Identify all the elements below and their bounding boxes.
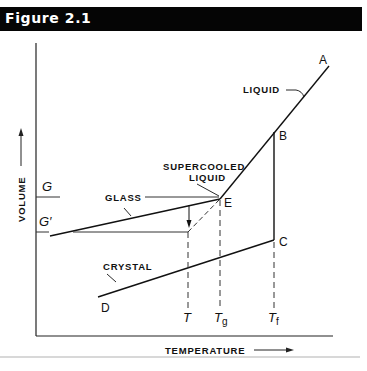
t-label: T: [183, 310, 192, 325]
crystal-leader: [107, 274, 116, 282]
supercooled-label-line1: SUPERCOOLED: [163, 161, 245, 172]
x-axis-label-group: TEMPERATURE: [165, 345, 294, 356]
point-a-label: A: [319, 53, 327, 67]
point-c-label: C: [279, 235, 288, 249]
g-prime-label: G′: [39, 214, 52, 229]
point-e-label: E: [224, 196, 232, 210]
glass-line: [50, 199, 220, 236]
glass-label: GLASS: [105, 192, 142, 203]
volume-temperature-diagram: VOLUME TEMPERATURE LIQUID SUPERCOOLED LI…: [0, 0, 367, 371]
tf-subscript: f: [276, 316, 279, 327]
glass-leader: [124, 208, 131, 216]
point-b-label: B: [279, 129, 287, 143]
supercooled-label-line2: LIQUID: [189, 172, 226, 183]
y-axis-arrow-icon: [19, 128, 24, 136]
liquid-leader: [286, 90, 304, 97]
tg-subscript: g: [222, 316, 228, 327]
x-axis-arrow-icon: [286, 348, 294, 353]
bottom-divider: [0, 356, 360, 358]
g-label: G: [42, 179, 52, 194]
y-axis-label: VOLUME: [16, 177, 27, 222]
liquid-label: LIQUID: [243, 84, 280, 95]
relaxation-arrow-icon: [187, 220, 192, 228]
y-axis-label-group: VOLUME: [16, 128, 27, 222]
point-d-label: D: [101, 301, 110, 315]
supercooled-leader: [197, 184, 219, 196]
crystal-label: CRYSTAL: [103, 261, 152, 272]
x-axis-label: TEMPERATURE: [165, 345, 245, 356]
